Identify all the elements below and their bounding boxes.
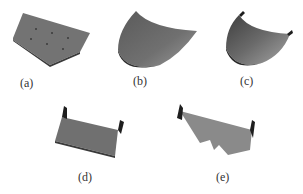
panel-d-flanged-plate (55, 106, 124, 158)
figure-canvas (0, 0, 303, 194)
panel-b-curved-sheet (118, 11, 197, 68)
panel-c-curved-flanged (226, 11, 293, 66)
hole-icon (35, 28, 37, 30)
panel-a-label: (a) (20, 76, 33, 91)
panel-c-label: (c) (240, 74, 253, 89)
panel-d-label: (d) (78, 170, 92, 185)
panel-e-notched-plate (177, 104, 255, 155)
panel-b-label: (b) (133, 74, 147, 89)
panel-e-label: (e) (216, 170, 229, 185)
panel-a-plate (13, 13, 90, 67)
